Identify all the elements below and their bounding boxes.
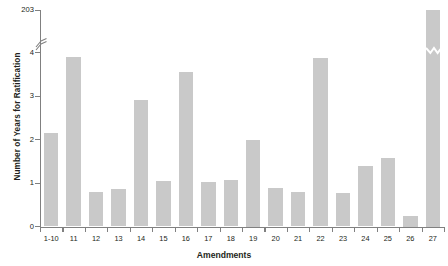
x-axis-tick-label: 24: [361, 234, 369, 243]
x-axis-tick: [197, 227, 198, 232]
x-axis-tick-label: 17: [204, 234, 212, 243]
bar: [89, 192, 104, 227]
x-axis-tick-label: 21: [294, 234, 302, 243]
bar: [201, 182, 216, 226]
x-axis-tick: [422, 227, 423, 232]
x-axis-tick: [175, 227, 176, 232]
bar-chart: Number of Years for Ratification 0123420…: [0, 0, 448, 266]
x-axis-tick: [444, 227, 445, 232]
x-axis-tick: [242, 227, 243, 232]
bar: [313, 58, 328, 227]
bar: [358, 166, 373, 227]
x-axis-tick: [40, 227, 41, 232]
x-axis-tick: [220, 227, 221, 232]
x-axis-title: Amendments: [0, 250, 448, 260]
x-axis-tick-label: 22: [316, 234, 324, 243]
bar: [291, 192, 306, 227]
bar: [381, 158, 396, 227]
bar: [224, 180, 239, 227]
bar: [66, 57, 81, 227]
x-axis-tick-label: 13: [114, 234, 122, 243]
x-axis-tick: [377, 227, 378, 232]
x-axis-tick: [107, 227, 108, 232]
bar: [403, 216, 418, 227]
bar: [336, 193, 351, 226]
x-axis-tick: [85, 227, 86, 232]
x-axis-tick: [309, 227, 310, 232]
bar: [268, 188, 283, 226]
x-axis-tick-label: 23: [339, 234, 347, 243]
x-axis-tick: [287, 227, 288, 232]
x-axis-tick-label: 25: [384, 234, 392, 243]
bar-break-icon: [426, 41, 441, 50]
x-axis-tick: [399, 227, 400, 232]
bar: [44, 133, 59, 227]
x-axis-tick-label: 18: [227, 234, 235, 243]
x-axis-tick-label: 19: [249, 234, 257, 243]
x-axis-tick: [332, 227, 333, 232]
x-axis-tick-label: 14: [137, 234, 145, 243]
bar: [156, 181, 171, 227]
x-axis-tick-label: 15: [159, 234, 167, 243]
x-axis-tick-label: 16: [182, 234, 190, 243]
x-axis-tick: [62, 227, 63, 232]
x-axis-tick-label: 26: [406, 234, 414, 243]
x-axis-tick: [130, 227, 131, 232]
bar: [426, 10, 441, 227]
bar: [111, 189, 126, 227]
x-axis-tick-label: 12: [92, 234, 100, 243]
x-axis-tick-label: 20: [272, 234, 280, 243]
x-axis-tick: [354, 227, 355, 232]
x-axis-tick-label: 1-10: [44, 234, 59, 243]
bar: [134, 100, 149, 226]
bar: [179, 72, 194, 226]
x-axis-tick-label: 27: [429, 234, 437, 243]
bars-layer: [0, 0, 448, 227]
x-axis-tick: [264, 227, 265, 232]
x-axis-tick: [152, 227, 153, 232]
x-axis-tick-label: 11: [70, 234, 78, 243]
bar: [246, 140, 261, 227]
